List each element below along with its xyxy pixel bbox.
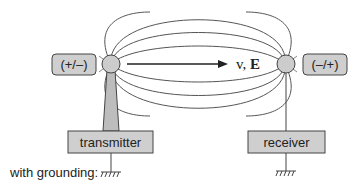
left-charge-label: (+/–) [60, 57, 87, 72]
transmitter-label: transmitter [80, 135, 142, 150]
grounding-legend-label: with grounding: [9, 165, 98, 180]
ground-icon [276, 171, 296, 176]
receiver-sphere [277, 55, 295, 73]
ground-icon [101, 172, 121, 177]
right-charge-label: (–/+) [311, 57, 338, 72]
receiver-label: receiver [263, 135, 310, 150]
transmitter-sphere [102, 55, 120, 73]
arrow-head-icon [218, 60, 228, 68]
propagation-label: v, E [236, 56, 260, 72]
antenna-field-diagram: v, E (+/–) (–/+) transmitter receiver wi… [0, 0, 358, 189]
